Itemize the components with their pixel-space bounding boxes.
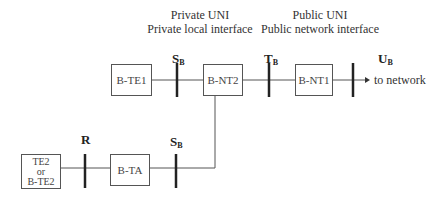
b-te1-label: B-TE1	[117, 75, 147, 86]
te2-box: TE2 or B-TE2	[21, 154, 61, 189]
b-nt2-box: B-NT2	[203, 64, 243, 96]
b-nt1-box: B-NT1	[295, 64, 333, 96]
b-te1-box: B-TE1	[111, 64, 152, 96]
to-network-label: to network	[374, 73, 426, 88]
ub-label: UB	[378, 51, 393, 67]
connection-lines	[0, 0, 436, 201]
tb-label: TB	[264, 51, 278, 67]
b-ta-label: B-TA	[118, 165, 143, 176]
b-ta-box: B-TA	[110, 154, 150, 186]
te2-label-line1: TE2	[32, 157, 49, 167]
sb-top-label: SB	[172, 51, 185, 67]
b-nt1-label: B-NT1	[298, 75, 329, 86]
te2-label-line3: B-TE2	[27, 177, 54, 187]
te2-label-line2: or	[37, 167, 45, 177]
r-label: R	[81, 132, 90, 148]
sb-bottom-label: SB	[170, 134, 183, 150]
b-nt2-label: B-NT2	[207, 75, 238, 86]
